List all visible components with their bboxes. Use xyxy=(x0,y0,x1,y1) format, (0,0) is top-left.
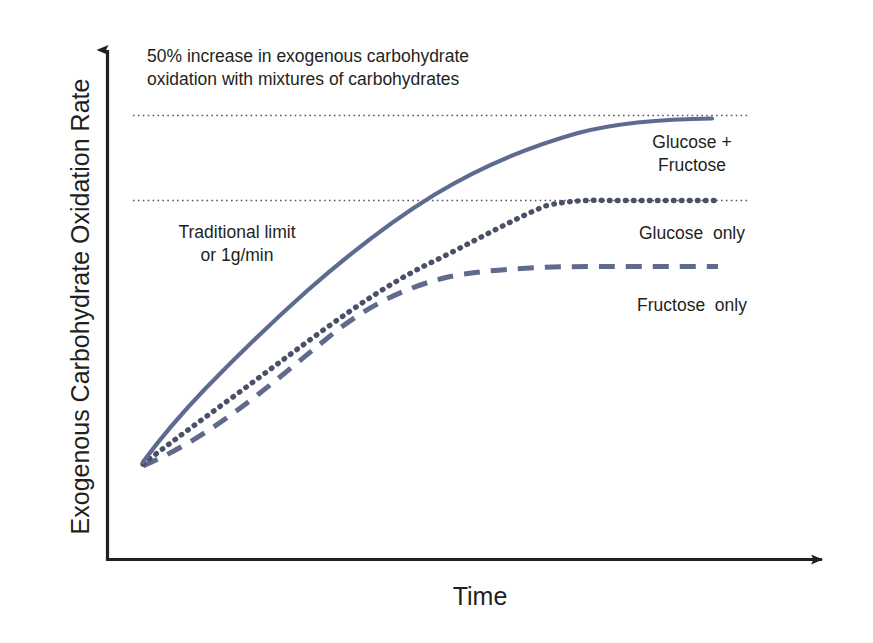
chart-figure: 50% increase in exogenous carbohydrateox… xyxy=(0,0,873,643)
x-axis-title: Time xyxy=(370,580,590,613)
y-axis-title: Exogenous Carbohydrate Oxidation Rate xyxy=(64,27,97,587)
chart-plot-area xyxy=(0,0,873,643)
annotation-limit-line2: or 1g/min xyxy=(201,245,274,265)
annotation-increase-line2: oxidation with mixtures of carbohydrates xyxy=(147,69,459,89)
annotation-limit-line1: Traditional limit xyxy=(178,222,295,242)
series-label-glucose-fructose-line2: Fructose xyxy=(658,155,726,175)
annotation-traditional-limit: Traditional limitor 1g/min xyxy=(137,221,337,267)
series-label-glucose-fructose: Glucose +Fructose xyxy=(612,131,772,177)
annotation-increase-note: 50% increase in exogenous carbohydrateox… xyxy=(147,45,469,91)
series-label-glucose-only: Glucose only xyxy=(602,222,782,245)
annotation-increase-line1: 50% increase in exogenous carbohydrate xyxy=(147,46,469,66)
series-label-fructose-only: Fructose only xyxy=(602,294,782,317)
series-label-glucose-fructose-line1: Glucose + xyxy=(652,132,731,152)
